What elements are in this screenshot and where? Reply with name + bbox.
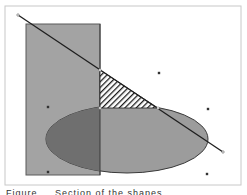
line-end-point <box>222 151 224 153</box>
vertex-point <box>99 107 101 109</box>
vertex-point <box>99 69 101 71</box>
diagram-canvas <box>0 0 247 195</box>
line-start-point <box>17 14 19 16</box>
figure-caption: Figure ... Section of the shapes <box>6 188 163 195</box>
scatter-dot <box>207 108 209 110</box>
scatter-dot <box>47 171 49 173</box>
scatter-dot <box>158 72 160 74</box>
scatter-dot <box>206 173 208 175</box>
scatter-dot <box>47 106 49 108</box>
vertex-point <box>157 107 159 109</box>
